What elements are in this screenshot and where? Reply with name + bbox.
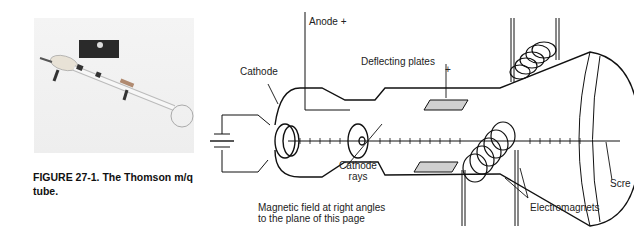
plus-sign-label: + bbox=[445, 64, 451, 75]
magnetic-field-label-line2: to the plane of this page bbox=[258, 213, 365, 224]
magnetic-field-label-line1: Magnetic field at right angles bbox=[258, 202, 385, 213]
screen-label: Scre bbox=[610, 178, 631, 189]
cathode-label: Cathode bbox=[240, 66, 278, 77]
electromagnets-label: Electromagnets bbox=[530, 202, 599, 213]
thomson-tube-diagram bbox=[0, 0, 634, 234]
deflecting-plates-label: Deflecting plates bbox=[361, 56, 435, 67]
cathode-rays-label-line1: Cathode bbox=[338, 160, 378, 171]
cathode-rays-label-line2: rays bbox=[338, 171, 378, 182]
anode-label: Anode + bbox=[309, 16, 347, 27]
